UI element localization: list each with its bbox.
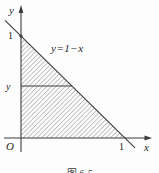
figure-caption: 图 6-5: [67, 168, 93, 173]
y-axis-label: y: [8, 4, 14, 16]
line-equation-label: y=1−x: [50, 42, 84, 54]
y-level-label: y: [5, 81, 11, 92]
y-intercept-label: 1: [8, 30, 13, 41]
x-intercept-label: 1: [119, 141, 124, 152]
x-axis-label: x: [143, 141, 149, 153]
y-intercept-dot: [19, 34, 22, 37]
figure-canvas: y x O 1 1 y y=1−x 图 6-5: [0, 0, 159, 173]
x-axis-arrowhead-icon: [145, 136, 153, 141]
y-axis-arrowhead-icon: [19, 5, 24, 13]
math-figure: y x O 1 1 y y=1−x 图 6-5: [0, 0, 159, 173]
origin-label: O: [6, 140, 14, 152]
